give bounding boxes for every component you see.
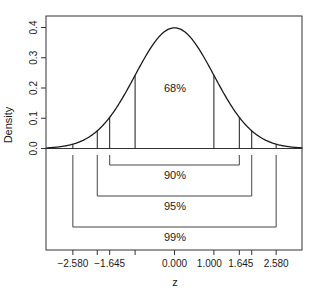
interval-bracket <box>73 155 276 227</box>
interval-bracket <box>110 155 240 165</box>
x-tick-label: −1.645 <box>94 258 125 269</box>
x-tick-label: 1.645 <box>228 258 253 269</box>
normal-distribution-chart: 0.00.10.20.30.4 −2.580−1.6450.0001.0001.… <box>0 0 319 299</box>
y-tick-label: 0.4 <box>28 20 39 34</box>
interval-brackets: 68%90%95%99% <box>73 82 276 243</box>
interval-label: 99% <box>164 231 186 243</box>
y-axis: 0.00.10.20.30.4 <box>28 20 46 155</box>
plot-frame <box>46 16 302 250</box>
x-tick-label: 1.000 <box>197 258 222 269</box>
y-tick-label: 0.3 <box>28 50 39 64</box>
x-axis-label: z <box>172 276 178 288</box>
interval-label: 90% <box>164 169 186 181</box>
x-tick-label: 2.580 <box>264 258 289 269</box>
x-tick-label: 0.000 <box>162 258 187 269</box>
y-axis-label: Density <box>2 106 14 143</box>
interval-label-68: 68% <box>164 82 186 94</box>
x-axis: −2.580−1.6450.0001.0001.6452.580 <box>57 250 289 269</box>
y-tick-label: 0.1 <box>28 111 39 125</box>
x-tick-label: −2.580 <box>57 258 88 269</box>
y-tick-label: 0.2 <box>28 81 39 95</box>
chart-canvas: 0.00.10.20.30.4 −2.580−1.6450.0001.0001.… <box>0 0 319 299</box>
y-tick-label: 0.0 <box>28 141 39 155</box>
interval-label: 95% <box>164 200 186 212</box>
